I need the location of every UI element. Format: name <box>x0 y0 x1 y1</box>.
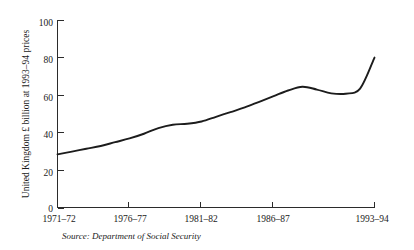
source-note: Source: Department of Social Security <box>62 231 201 241</box>
y-axis-title: United Kingdom £ billion at 1993–94 pric… <box>21 30 31 199</box>
y-tick-label-40: 40 <box>44 130 54 140</box>
data-series-line <box>58 58 375 155</box>
x-tick-label-1981-82: 1981–82 <box>184 214 218 224</box>
y-tick-label-0: 0 <box>48 204 53 214</box>
x-tick-label-1993-94: 1993–94 <box>355 214 389 224</box>
y-tick-label-20: 20 <box>44 168 54 178</box>
x-tick-label-1971-72: 1971–72 <box>42 214 76 224</box>
y-tick-label-80: 80 <box>44 55 54 65</box>
y-tick-label-60: 60 <box>44 93 54 103</box>
y-tick-label-100: 100 <box>39 18 54 28</box>
x-tick-label-1986-87: 1986–87 <box>256 214 290 224</box>
line-chart: United Kingdom £ billion at 1993–94 pric… <box>0 0 414 250</box>
chart-figure: United Kingdom £ billion at 1993–94 pric… <box>0 0 414 250</box>
x-tick-label-1976-77: 1976–77 <box>113 214 147 224</box>
source-text: Source: Department of Social Security <box>62 231 201 241</box>
